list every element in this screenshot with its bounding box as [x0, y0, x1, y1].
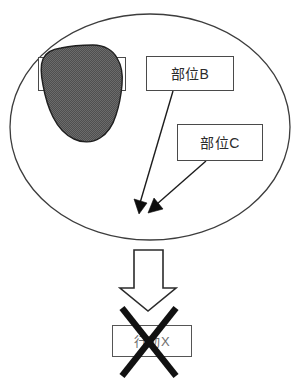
label-text-region-c: 部位C [200, 136, 240, 150]
label-text-region-b: 部位B [171, 67, 210, 81]
label-text-action-x: 行動X [134, 335, 170, 348]
diagram-root: 部位A 部位B 部位C 行動X [0, 0, 303, 392]
label-box-region-b[interactable]: 部位B [146, 56, 234, 91]
label-text-region-a: 部位A [63, 67, 102, 81]
down-block-arrow [120, 250, 176, 311]
label-box-region-a[interactable]: 部位A [38, 57, 126, 91]
label-box-action-x[interactable]: 行動X [112, 325, 192, 357]
label-box-region-c[interactable]: 部位C [177, 124, 263, 161]
